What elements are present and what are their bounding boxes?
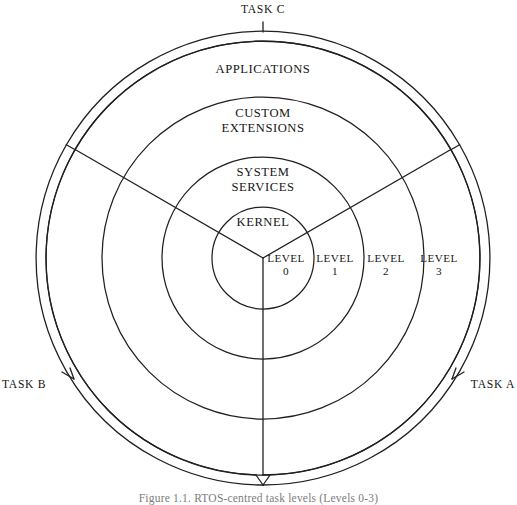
ring-label-system-services: SYSTEM SERVICES [183, 165, 343, 194]
level-label-1-word: LEVEL [311, 252, 359, 265]
figure-caption: Figure 1.1. RTOS-centred task levels (Le… [0, 492, 517, 504]
level-label-2-word: LEVEL [362, 252, 410, 265]
level-label-3-number: 3 [415, 265, 463, 278]
ring-label-system-line2: SERVICES [183, 180, 343, 195]
ring-label-system-line1: SYSTEM [183, 165, 343, 180]
ring-label-custom-extensions: CUSTOM EXTENSIONS [183, 106, 343, 135]
level-label-2-number: 2 [362, 265, 410, 278]
level-label-1-number: 1 [311, 265, 359, 278]
level-label-0: LEVEL 0 [262, 252, 310, 277]
level-label-3-word: LEVEL [415, 252, 463, 265]
ring-label-kernel: KERNEL [203, 215, 323, 230]
brace-notch-bottom-right [263, 475, 270, 485]
brace-segment-task-a-inner [263, 150, 480, 475]
ring-label-custom-line1: CUSTOM [183, 106, 343, 121]
level-label-1: LEVEL 1 [311, 252, 359, 277]
task-label-c: TASK C [213, 3, 313, 16]
task-label-a: TASK A [443, 378, 515, 391]
ring-label-applications: APPLICATIONS [183, 62, 343, 77]
task-label-b: TASK B [2, 378, 74, 391]
figure-container: APPLICATIONS CUSTOM EXTENSIONS SYSTEM SE… [0, 0, 517, 505]
brace-notch-bottom-left [256, 475, 263, 485]
ring-label-custom-line2: EXTENSIONS [183, 121, 343, 136]
level-label-2: LEVEL 2 [362, 252, 410, 277]
brace-segment-task-b-inner [46, 150, 256, 475]
brace-segment-task-b-outer [36, 145, 263, 485]
sector-dividers-group [75, 150, 451, 476]
brace-notch-left [66, 145, 75, 150]
brace-notch-right [451, 145, 460, 150]
level-label-0-number: 0 [262, 265, 310, 278]
level-label-3: LEVEL 3 [415, 252, 463, 277]
level-label-0-word: LEVEL [262, 252, 310, 265]
brace-segment-task-a-outer [263, 145, 490, 485]
